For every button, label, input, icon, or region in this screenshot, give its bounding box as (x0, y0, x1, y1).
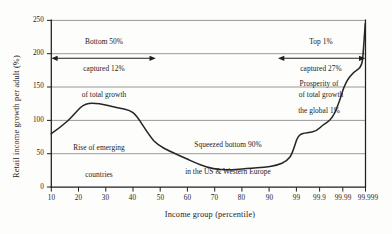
prosperity-line-1: Prosperity of (282, 80, 356, 89)
y-tick-label-150: 150 (26, 82, 44, 90)
bottom-50-line-2: captured 12% (63, 65, 145, 74)
x-tick-label-99-999: 99.999 (351, 194, 385, 202)
y-tick-label-250: 250 (26, 16, 44, 24)
prosperity-annotation: Prosperity of the global 1% (282, 63, 356, 133)
bottom50-arrow-head-right (150, 56, 156, 61)
x-tick-label-70: 70 (202, 194, 227, 202)
y-tick-label-200: 200 (26, 49, 44, 57)
y-tick-label-100: 100 (26, 116, 44, 124)
x-axis-title: Income group (percentile) (140, 210, 280, 220)
y-axis-title: Retail income growth per adult (%) (12, 55, 22, 178)
emerging-countries-annotation: Rise of emerging countries (58, 127, 140, 197)
x-tick-label-60: 60 (175, 194, 200, 202)
bottom50-arrow-head-left (51, 56, 57, 61)
x-tick-label-80: 80 (229, 194, 254, 202)
elephant-curve-chart: Retail income growth per adult (%) 250 2… (0, 0, 392, 234)
y-tick-marks (47, 20, 51, 187)
prosperity-line-2: the global 1% (282, 107, 356, 116)
bottom-50-line-1: Bottom 50% (63, 38, 145, 47)
squeezed-bottom-annotation: Squeezed bottom 90% in the US & Western … (170, 124, 286, 194)
emerging-line-2: countries (58, 171, 140, 180)
squeezed-line-2: in the US & Western Europe (170, 168, 286, 177)
top-1-line-1: Top 1% (281, 38, 361, 47)
bottom-50-line-3: of total growth (63, 91, 145, 100)
y-tick-label-0: 0 (26, 183, 44, 191)
emerging-line-1: Rise of emerging (58, 144, 140, 153)
x-tick-label-90: 90 (257, 194, 282, 202)
squeezed-line-1: Squeezed bottom 90% (170, 141, 286, 150)
y-tick-label-50: 50 (26, 149, 44, 157)
bottom-50-annotation: Bottom 50% captured 12% of total growth (63, 21, 145, 117)
x-tick-label-50: 50 (148, 194, 173, 202)
